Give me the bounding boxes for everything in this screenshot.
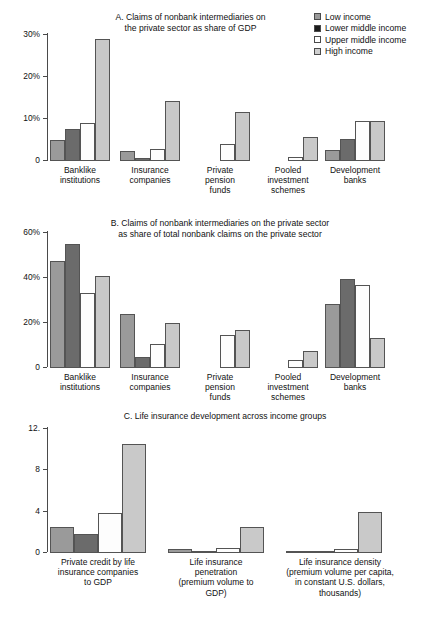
panel-a-group-pooled bbox=[258, 40, 318, 161]
panel-c-ytick-label-4: 4 bbox=[8, 506, 40, 516]
panel-c-group-private-credit bbox=[50, 427, 146, 553]
panel-b-group-insurance bbox=[120, 231, 180, 368]
bar bbox=[120, 314, 135, 368]
bar bbox=[235, 112, 250, 161]
bar bbox=[303, 137, 318, 161]
panel-c-ytick-4 bbox=[43, 511, 47, 512]
panel-b-group-development bbox=[325, 231, 385, 368]
panel-a-ytick-label-30: 30% bbox=[8, 29, 40, 39]
bar bbox=[65, 129, 80, 161]
panel-a-category-insurance: Insurance companies bbox=[110, 165, 190, 185]
panel-c-category-density: Life insurance density (premium volume p… bbox=[264, 557, 416, 598]
bar bbox=[286, 551, 310, 553]
panel-a-group-banklike bbox=[50, 40, 110, 161]
panel-c-category-private-credit: Private credit by life insurance compani… bbox=[36, 557, 160, 588]
bar bbox=[355, 285, 370, 368]
bar bbox=[220, 335, 235, 368]
bar bbox=[168, 549, 192, 553]
bar bbox=[288, 157, 303, 161]
panel-a-y-axis bbox=[47, 33, 48, 161]
bar bbox=[235, 330, 250, 368]
panel-b-ytick-0 bbox=[43, 367, 47, 368]
bar bbox=[310, 551, 334, 553]
bar bbox=[340, 139, 355, 161]
bar bbox=[325, 304, 340, 368]
panel-a-ytick-label-10: 10% bbox=[8, 113, 40, 123]
panel-c: C. Life insurance development across inc… bbox=[0, 405, 437, 626]
panel-b-group-pooled bbox=[258, 231, 318, 368]
bar bbox=[165, 101, 180, 161]
panel-b-plot: 60% 40% 20% 0 Banklike institutions Insu… bbox=[0, 206, 437, 401]
panel-a-group-development bbox=[325, 40, 385, 161]
panel-b-ytick-label-0: 0 bbox=[8, 362, 40, 372]
bar bbox=[355, 121, 370, 161]
panel-c-ytick-8 bbox=[43, 469, 47, 470]
bar bbox=[50, 261, 65, 368]
panel-b-ytick-label-40: 40% bbox=[8, 272, 40, 282]
bar bbox=[370, 121, 385, 161]
panel-a-ytick-label-20: 20% bbox=[8, 71, 40, 81]
bar bbox=[150, 344, 165, 368]
panel-b-ytick-20 bbox=[43, 322, 47, 323]
panel-b-y-axis bbox=[47, 231, 48, 367]
panel-b-ytick-label-20: 20% bbox=[8, 317, 40, 327]
panel-b-ytick-label-60: 60% bbox=[8, 227, 40, 237]
bar bbox=[288, 360, 303, 368]
panel-b-ytick-40 bbox=[43, 277, 47, 278]
panel-c-group-density bbox=[286, 427, 382, 553]
panel-c-plot: 12. 8 4 0 Private credit by life insuran… bbox=[0, 405, 437, 626]
panel-b-category-banklike: Banklike institutions bbox=[40, 372, 120, 392]
bar bbox=[340, 279, 355, 368]
panel-b-category-insurance: Insurance companies bbox=[110, 372, 190, 392]
panel-b-category-development: Development banks bbox=[312, 372, 398, 392]
bar bbox=[370, 338, 385, 368]
panel-c-y-axis bbox=[47, 427, 48, 552]
bar bbox=[50, 527, 74, 553]
panel-a-ytick-20 bbox=[43, 76, 47, 77]
bar bbox=[50, 140, 65, 161]
panel-c-category-penetration: Life insurance penetration (premium volu… bbox=[156, 557, 276, 598]
bar bbox=[165, 323, 180, 369]
bar bbox=[122, 444, 146, 553]
bar bbox=[80, 293, 95, 369]
bar bbox=[240, 527, 264, 553]
bar bbox=[135, 357, 150, 369]
bar bbox=[80, 123, 95, 161]
panel-a-plot: 30% 20% 10% 0 Banklike institutions Insu… bbox=[0, 0, 437, 195]
bar bbox=[135, 158, 150, 161]
panel-a-ytick-0 bbox=[43, 160, 47, 161]
bar bbox=[150, 149, 165, 161]
panel-a-group-insurance bbox=[120, 40, 180, 161]
bar bbox=[95, 39, 110, 161]
panel-a-category-banklike: Banklike institutions bbox=[40, 165, 120, 185]
bar bbox=[120, 151, 135, 161]
panel-b: B. Claims of nonbank intermediaries on t… bbox=[0, 206, 437, 401]
bar bbox=[325, 150, 340, 161]
bar bbox=[95, 276, 110, 368]
panel-c-group-penetration bbox=[168, 427, 264, 553]
panel-a-ytick-10 bbox=[43, 118, 47, 119]
panel-c-ytick-label-0: 0 bbox=[8, 547, 40, 557]
panel-a-category-development: Development banks bbox=[312, 165, 398, 185]
panel-a: A. Claims of nonbank intermediaries on t… bbox=[0, 0, 437, 195]
bar bbox=[303, 351, 318, 368]
panel-c-ytick-label-8: 8 bbox=[8, 464, 40, 474]
panel-a-ytick-30 bbox=[43, 34, 47, 35]
bar bbox=[334, 549, 358, 553]
bar bbox=[220, 144, 235, 161]
panel-c-ytick-12 bbox=[43, 428, 47, 429]
panel-b-ytick-60 bbox=[43, 232, 47, 233]
bar bbox=[98, 513, 122, 553]
panel-a-ytick-label-0: 0 bbox=[8, 155, 40, 165]
bar bbox=[65, 244, 80, 368]
panel-a-group-pension bbox=[190, 40, 250, 161]
panel-b-group-pension bbox=[190, 231, 250, 368]
panel-c-ytick-0 bbox=[43, 552, 47, 553]
bar bbox=[216, 548, 240, 553]
panel-b-group-banklike bbox=[50, 231, 110, 368]
bar bbox=[358, 512, 382, 553]
bar bbox=[74, 534, 98, 553]
bar bbox=[192, 551, 216, 553]
panel-c-ytick-label-12: 12. bbox=[8, 423, 40, 433]
